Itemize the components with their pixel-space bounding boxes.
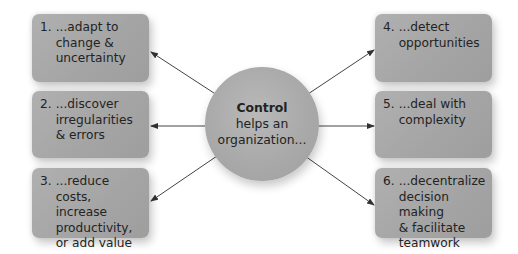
box-text: ...adapt to change & uncertainty [56, 20, 143, 76]
box-3-reduce-costs: 3. ...reduce costs, increase productivit… [32, 168, 149, 238]
box-2-discover: 2. ...discover irregularities & errors [32, 91, 149, 158]
box-text: ...deal with complexity [399, 97, 486, 152]
box-6-decentralize: 6. ...decentralize decision making & fac… [375, 168, 492, 238]
box-5-complexity: 5. ...deal with complexity [375, 91, 492, 158]
arrow-to-box-6 [305, 156, 374, 205]
box-text: ...detect opportunities [399, 20, 486, 76]
arrow-to-box-1 [151, 52, 217, 95]
box-text: ...discover irregularities & errors [56, 97, 143, 152]
center-line-2: helps an [236, 116, 289, 132]
box-number: 5. [383, 97, 395, 152]
box-number: 1. [40, 20, 52, 76]
box-1-adapt: 1. ...adapt to change & uncertainty [32, 14, 149, 82]
box-number: 4. [383, 20, 395, 76]
arrow-to-box-3 [151, 156, 217, 201]
center-circle-control: Control helps an organization... [205, 67, 319, 181]
center-line-3: organization... [218, 132, 307, 148]
center-title: Control [236, 100, 287, 116]
box-number: 3. [40, 174, 52, 232]
box-4-detect: 4. ...detect opportunities [375, 14, 492, 82]
box-number: 2. [40, 97, 52, 152]
box-text: ...decentralize decision making & facili… [399, 174, 486, 232]
arrow-to-box-4 [305, 50, 374, 96]
box-number: 6. [383, 174, 395, 232]
box-text: ...reduce costs, increase productivity, … [56, 174, 143, 232]
